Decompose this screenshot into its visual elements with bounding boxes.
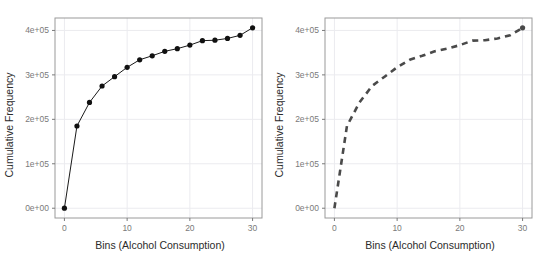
left-panel-point [87,100,92,105]
right-panel-y-tick-label: 3e+05 [295,70,319,80]
right-panel-y-tick-label: 2e+05 [295,114,319,124]
left-panel-y-tick-label: 4e+05 [25,25,49,35]
left-panel-point [112,74,117,79]
right-panel-data-points [520,25,525,30]
left-panel-point [62,206,67,211]
left-panel-point [150,53,155,58]
right-panel-plot: 0e+001e+052e+053e+054e+05 0102030 Bins (… [270,0,540,260]
left-panel-plot: 0e+001e+052e+053e+054e+05 0102030 Bins (… [0,0,270,260]
left-panel-point [212,38,217,43]
left-panel-y-tick-label: 2e+05 [25,114,49,124]
chart-panel-right: 0e+001e+052e+053e+054e+05 0102030 Bins (… [270,0,540,260]
left-panel-point [99,83,104,88]
left-panel-x-tick-label: 0 [62,223,67,233]
left-panel-x-axis-title: Bins (Alcohol Consumption) [95,239,225,251]
left-panel-y-tick-label: 3e+05 [25,70,49,80]
left-panel-point [237,33,242,38]
right-panel-x-tick-label: 20 [455,223,465,233]
left-panel-point [200,38,205,43]
right-panel-x-tick-label: 30 [518,223,528,233]
left-panel-y-axis-title: Cumulative Frequency [3,72,15,178]
left-panel-point [187,43,192,48]
left-panel-point [225,36,230,41]
left-panel-point [175,46,180,51]
right-panel-y-tick-label: 4e+05 [295,25,319,35]
left-panel-y-tick-label: 0e+00 [25,203,49,213]
left-panel-point [162,49,167,54]
left-panel-point [74,123,79,128]
left-panel-x-tick-label: 10 [122,223,132,233]
cumulative-frequency-figure: 0e+001e+052e+053e+054e+05 0102030 Bins (… [0,0,540,260]
left-panel-point [250,25,255,30]
right-panel-x-tick-label: 10 [392,223,402,233]
chart-panel-left: 0e+001e+052e+053e+054e+05 0102030 Bins (… [0,0,270,260]
right-panel-y-axis-title: Cumulative Frequency [273,72,285,178]
right-panel-x-tick-label: 0 [332,223,337,233]
right-panel-y-tick-label: 0e+00 [295,203,319,213]
right-panel-endpoint [520,25,525,30]
right-panel-y-tick-label: 1e+05 [295,159,319,169]
left-panel-point [137,57,142,62]
left-panel-y-tick-label: 1e+05 [25,159,49,169]
right-panel-x-axis-title: Bins (Alcohol Consumption) [365,239,495,251]
left-panel-x-tick-label: 20 [185,223,195,233]
left-panel-x-tick-label: 30 [248,223,258,233]
left-panel-point [125,65,130,70]
